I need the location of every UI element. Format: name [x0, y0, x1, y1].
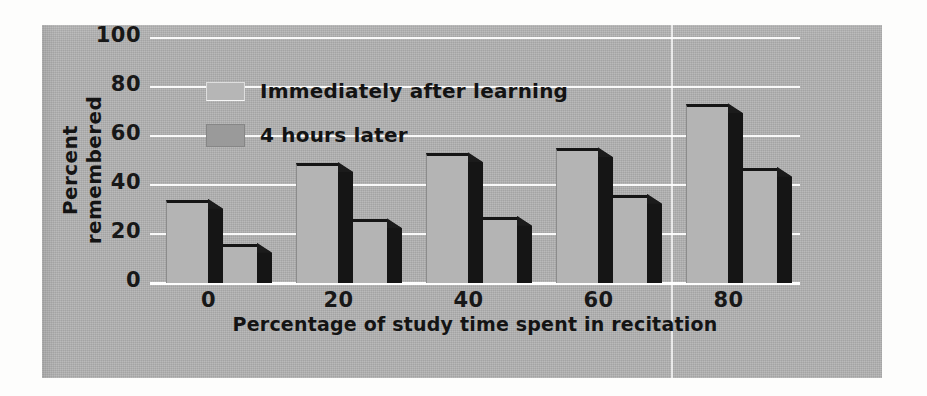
chart-page: Percent remembered Percentage of study t… — [0, 0, 927, 396]
y-axis-tick-0: 0 — [126, 268, 141, 292]
x-axis-tick-40: 40 — [453, 288, 483, 312]
bar-face — [296, 163, 338, 283]
y-axis-tick-20: 20 — [111, 219, 141, 243]
bar-top-bevel — [598, 147, 613, 157]
x-axis-tick-80: 80 — [713, 288, 743, 312]
chart-legend: Immediately after learning 4 hours later — [206, 76, 568, 164]
bar-top-bevel — [208, 199, 223, 209]
bar-side-shadow — [777, 168, 792, 283]
bar-side-shadow — [387, 219, 402, 283]
bar-20-series-1 — [296, 163, 338, 283]
bar-side-shadow — [517, 217, 532, 283]
bar-80-series-1 — [686, 104, 728, 283]
y-axis-tick-60: 60 — [111, 121, 141, 145]
bar-side-shadow — [338, 163, 353, 283]
bar-top-bevel — [777, 167, 792, 177]
bar-side-shadow — [208, 200, 223, 283]
bar-0-series-1 — [166, 200, 208, 283]
legend-swatch-4-hours-later — [206, 124, 245, 147]
bar-60-series-1 — [556, 148, 598, 283]
bar-top-bevel — [257, 243, 272, 253]
bar-side-shadow — [647, 195, 662, 283]
legend-label-immediately: Immediately after learning — [260, 79, 568, 103]
bar-top-bevel — [728, 103, 743, 113]
bar-top-bevel — [647, 194, 662, 204]
y-axis-tick-40: 40 — [111, 170, 141, 194]
bar-face — [426, 153, 468, 283]
y-axis-tick-80: 80 — [111, 72, 141, 96]
gridline-100 — [150, 37, 800, 39]
legend-swatch-immediately — [206, 82, 245, 101]
bar-face — [686, 104, 728, 283]
legend-item-4-hours-later: 4 hours later — [206, 120, 568, 150]
y-axis-tick-100: 100 — [96, 23, 141, 47]
x-axis-tick-20: 20 — [323, 288, 353, 312]
bar-top-bevel — [387, 218, 402, 228]
x-axis-tick-60: 60 — [583, 288, 613, 312]
x-axis-title: Percentage of study time spent in recita… — [150, 313, 800, 335]
legend-item-immediately: Immediately after learning — [206, 76, 568, 106]
bar-top-bevel — [517, 216, 532, 226]
y-axis-title: Percent remembered — [58, 55, 106, 285]
bar-40-series-1 — [426, 153, 468, 283]
x-axis-tick-0: 0 — [201, 288, 216, 312]
legend-label-4-hours-later: 4 hours later — [260, 123, 408, 147]
bar-side-shadow — [468, 153, 483, 283]
bar-side-shadow — [728, 104, 743, 283]
bar-face — [166, 200, 208, 283]
bar-face — [556, 148, 598, 283]
bar-side-shadow — [598, 148, 613, 283]
